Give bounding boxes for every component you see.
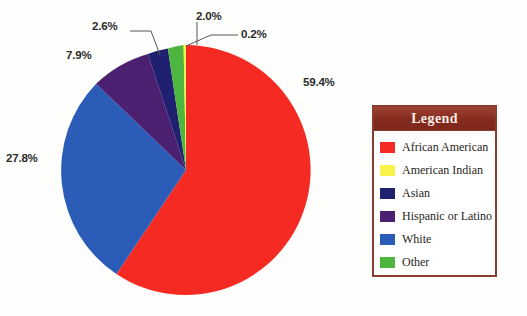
legend-item-african-american[interactable]: African American [380,136,495,159]
leader-line-american-indian [186,35,238,46]
chart-canvas: 59.4% 27.8% 7.9% 2.6% 2.0% 0.2% Legend A… [0,0,527,316]
data-label-asian: 2.6% [92,20,117,32]
legend-swatch-hispanic-or-latino [380,211,395,222]
legend-box: Legend African American American Indian … [372,105,497,277]
data-label-african-american: 59.4% [303,76,335,88]
data-label-white: 27.8% [6,152,38,164]
legend-title: Legend [411,111,458,127]
legend-label-white: White [402,232,431,247]
data-label-hispanic-or-latino: 7.9% [66,49,91,61]
legend-swatch-other [380,257,395,268]
legend-label-other: Other [402,255,429,270]
legend-label-african-american: African American [402,140,488,155]
legend-label-american-indian: American Indian [402,163,483,178]
data-label-american-indian: 0.2% [241,28,266,40]
legend-item-white[interactable]: White [380,228,495,251]
legend-title-bar: Legend [374,107,495,131]
legend-swatch-asian [380,188,395,199]
legend-swatch-white [380,234,395,245]
legend-label-asian: Asian [402,186,430,201]
leader-line-asian [130,31,160,55]
data-label-other: 2.0% [196,10,221,22]
legend-item-other[interactable]: Other [380,251,495,274]
legend-swatch-american-indian [380,165,395,176]
legend-item-hispanic-or-latino[interactable]: Hispanic or Latino [380,205,495,228]
legend-items: African American American Indian Asian H… [374,131,495,274]
legend-swatch-african-american [380,142,395,153]
legend-label-hispanic-or-latino: Hispanic or Latino [402,209,492,224]
legend-item-asian[interactable]: Asian [380,182,495,205]
legend-item-american-indian[interactable]: American Indian [380,159,495,182]
